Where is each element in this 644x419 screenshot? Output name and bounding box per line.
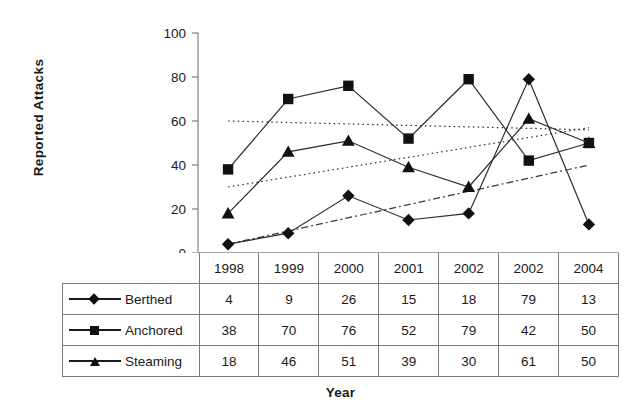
square-marker-icon (223, 164, 233, 174)
y-tick-label: 40 (171, 158, 186, 173)
legend-label: Berthed (125, 292, 172, 307)
value-cell: 18 (439, 284, 499, 315)
table-row: Berthed492615187913 (63, 284, 619, 315)
legend-square-marker-icon (90, 326, 99, 335)
value-cell: 79 (499, 284, 559, 315)
value-cell: 52 (379, 315, 439, 346)
legend-label: Steaming (125, 354, 182, 369)
triangle-marker-icon (522, 112, 535, 123)
diamond-marker-icon (282, 227, 294, 239)
year-header-2002-4: 2002 (439, 253, 499, 284)
y-axis-ticks: 020406080100 (163, 26, 198, 260)
triangle-marker-icon (342, 134, 355, 145)
table-row: Anchored38707652794250 (63, 315, 619, 346)
legend-cell-steaming: Steaming (63, 346, 200, 377)
diamond-marker-icon (222, 238, 234, 250)
legend-triangle-marker-icon (90, 357, 100, 366)
y-tick-label: 80 (171, 70, 186, 85)
value-cell: 38 (199, 315, 259, 346)
value-cell: 70 (259, 315, 319, 346)
table-row: Steaming18465139306150 (63, 346, 619, 377)
x-axis-title: Year (62, 385, 619, 400)
value-cell: 51 (319, 346, 379, 377)
y-tick-label: 100 (163, 26, 186, 41)
year-header-1998-0: 1998 (199, 253, 259, 284)
value-cell: 15 (379, 284, 439, 315)
diamond-marker-icon (342, 190, 354, 202)
square-marker-icon (463, 74, 473, 84)
triangle-marker-icon (402, 161, 415, 172)
value-cell: 4 (199, 284, 259, 315)
value-cell: 13 (559, 284, 619, 315)
diamond-marker-icon (523, 73, 535, 85)
diamond-marker-icon (402, 214, 414, 226)
legend-cell-anchored: Anchored (63, 315, 200, 346)
value-cell: 30 (439, 346, 499, 377)
line-chart-plot: 020406080100 (0, 0, 644, 260)
legend-label: Anchored (125, 323, 183, 338)
square-marker-icon (343, 81, 353, 91)
diamond-marker-icon (69, 292, 121, 306)
value-cell: 26 (319, 284, 379, 315)
chart-figure: Reported Attacks 020406080100 1998199920… (0, 0, 644, 419)
value-cell: 46 (259, 346, 319, 377)
value-cell: 18 (199, 346, 259, 377)
year-header-2004-6: 2004 (559, 253, 619, 284)
square-marker-icon (283, 94, 293, 104)
legend-diamond-marker-icon (88, 294, 99, 305)
diamond-marker-icon (462, 207, 474, 219)
square-marker-icon (69, 323, 121, 337)
value-cell: 42 (499, 315, 559, 346)
data-table: 1998199920002001200220022004 Berthed4926… (62, 253, 619, 377)
table-header-row: 1998199920002001200220022004 (63, 253, 619, 284)
year-header-2002-5: 2002 (499, 253, 559, 284)
legend-cell-berthed: Berthed (63, 284, 200, 315)
value-cell: 50 (559, 346, 619, 377)
year-header-2001-3: 2001 (379, 253, 439, 284)
trend-line-berthed (228, 165, 589, 244)
value-cell: 79 (439, 315, 499, 346)
triangle-marker-icon (69, 354, 121, 368)
value-cell: 61 (499, 346, 559, 377)
data-series (222, 73, 596, 250)
diamond-marker-icon (583, 218, 595, 230)
year-header-1999-1: 1999 (259, 253, 319, 284)
trend-line-anchored (228, 121, 589, 130)
y-tick-label: 60 (171, 114, 186, 129)
table-corner-cell (63, 253, 200, 284)
value-cell: 50 (559, 315, 619, 346)
table-body: Berthed492615187913Anchored3870765279425… (63, 284, 619, 377)
square-marker-icon (524, 155, 534, 165)
year-header-2000-2: 2000 (319, 253, 379, 284)
value-cell: 76 (319, 315, 379, 346)
value-cell: 39 (379, 346, 439, 377)
square-marker-icon (403, 133, 413, 143)
value-cell: 9 (259, 284, 319, 315)
y-tick-label: 20 (171, 202, 186, 217)
